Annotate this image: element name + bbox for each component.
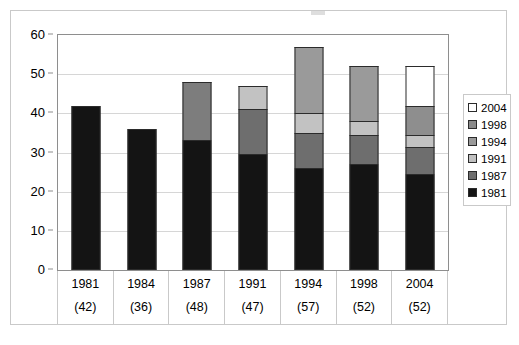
y-axis-tick-label: 60 [31,27,45,42]
x-axis-year-label: 1987 [169,277,224,291]
bar-slot [225,35,281,270]
bar-slot [169,35,225,270]
bar-segment[interactable] [183,82,212,140]
x-axis-total-label: (52) [392,300,447,314]
legend-item[interactable]: 1987 [468,167,507,184]
y-axis-tick-mark [48,112,53,113]
bar-segment[interactable] [238,154,267,270]
stacked-bar[interactable] [127,129,156,270]
bar-segment[interactable] [294,168,323,270]
stacked-bar[interactable] [350,66,379,270]
bar-series-group [58,35,448,270]
legend: 200419981994199119871981 [463,94,511,206]
y-axis-tick-mark [48,34,53,35]
bar-slot [114,35,170,270]
legend-item[interactable]: 1991 [468,150,507,167]
stacked-bar[interactable] [183,82,212,270]
y-axis-tick-mark [48,73,53,74]
bar-slot [337,35,393,270]
legend-swatch-icon [468,188,477,197]
bar-segment[interactable] [294,133,323,168]
legend-item-label: 1981 [481,187,507,199]
legend-item[interactable]: 1981 [468,184,507,201]
y-axis-tick-label: 0 [38,262,45,277]
legend-item[interactable]: 1998 [468,116,507,133]
bar-segment[interactable] [406,106,435,135]
x-axis-total-label: (48) [169,300,224,314]
y-axis-tick-label: 30 [31,144,45,159]
y-axis-tick-label: 10 [31,222,45,237]
bar-segment[interactable] [294,47,323,114]
legend-swatch-icon [468,171,477,180]
x-axis-column: 1998(52) [337,271,393,324]
x-axis-year-label: 1994 [281,277,336,291]
legend-item[interactable]: 2004 [468,99,507,116]
top-edge-artifact [311,11,325,15]
x-axis-year-label: 1981 [58,277,113,291]
plot-area [57,34,449,271]
y-axis-tick-label: 40 [31,105,45,120]
bar-segment[interactable] [406,174,435,270]
x-axis-column: 1991(47) [225,271,281,324]
y-axis-tick-mark [48,269,53,270]
bar-segment[interactable] [127,129,156,270]
bar-segment[interactable] [294,113,323,133]
legend-swatch-icon [468,103,477,112]
y-axis-tick-mark [48,190,53,191]
x-axis-year-label: 1984 [114,277,169,291]
x-axis-total-label: (36) [114,300,169,314]
x-axis-year-label: 1991 [225,277,280,291]
x-axis-column: 1984(36) [114,271,170,324]
x-axis-column: 1987(48) [169,271,225,324]
legend-item-label: 1987 [481,170,507,182]
bar-segment[interactable] [350,135,379,164]
bar-segment[interactable] [406,135,435,147]
bar-segment[interactable] [406,66,435,105]
bar-slot [392,35,448,270]
y-axis-tick-label: 50 [31,66,45,81]
y-axis: 0102030405060 [11,34,53,271]
legend-item-label: 1991 [481,153,507,165]
chart-frame: 0102030405060 1981(42)1984(36)1987(48)19… [10,10,507,325]
legend-item-label: 1994 [481,136,507,148]
x-axis-year-label: 2004 [392,277,447,291]
legend-swatch-icon [468,137,477,146]
legend-item[interactable]: 1994 [468,133,507,150]
bar-segment[interactable] [406,147,435,174]
y-axis-tick-label: 20 [31,183,45,198]
x-axis-column: 1994(57) [281,271,337,324]
legend-swatch-icon [468,154,477,163]
x-axis-total-label: (42) [58,300,113,314]
x-axis-table: 1981(42)1984(36)1987(48)1991(47)1994(57)… [57,271,449,324]
stacked-bar[interactable] [238,86,267,270]
x-axis-year-label: 1998 [337,277,392,291]
bar-segment[interactable] [238,86,267,110]
y-axis-tick-mark [48,151,53,152]
bar-segment[interactable] [350,66,379,121]
x-axis-column: 2004(52) [392,271,448,324]
bar-slot [58,35,114,270]
legend-item-label: 1998 [481,119,507,131]
bar-segment[interactable] [183,140,212,270]
bar-slot [281,35,337,270]
x-axis-column: 1981(42) [58,271,114,324]
bar-segment[interactable] [350,164,379,270]
stacked-bar[interactable] [406,66,435,270]
bar-segment[interactable] [350,121,379,135]
x-axis-total-label: (57) [281,300,336,314]
bar-segment[interactable] [238,109,267,154]
y-axis-tick-mark [48,229,53,230]
x-axis-total-label: (52) [337,300,392,314]
bar-segment[interactable] [71,106,100,271]
stacked-bar[interactable] [71,106,100,271]
legend-swatch-icon [468,120,477,129]
legend-item-label: 2004 [481,102,507,114]
x-axis-total-label: (47) [225,300,280,314]
stacked-bar[interactable] [294,47,323,270]
